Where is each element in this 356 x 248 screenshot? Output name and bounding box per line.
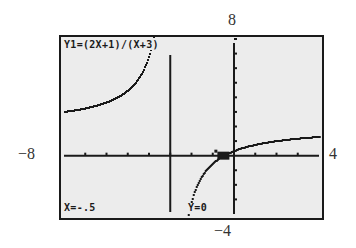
- xmin-label: −8: [18, 146, 35, 162]
- curve-left-branch: [144, 66, 146, 68]
- curve-left-branch: [143, 69, 145, 71]
- ymin-label: −4: [214, 223, 231, 239]
- curve-left-branch: [145, 64, 147, 66]
- curve-left-branch: [139, 76, 141, 78]
- curve-left-branch: [141, 73, 143, 75]
- curve-right-branch: [204, 172, 206, 174]
- curve-right-branch: [192, 198, 194, 200]
- curve-left-branch: [148, 56, 150, 58]
- curve-right-branch: [196, 186, 198, 188]
- curve-right-branch: [199, 180, 201, 182]
- curve-right-branch: [194, 191, 196, 193]
- curve-left-branch: [146, 62, 148, 64]
- curve-right-branch: [202, 175, 204, 177]
- x-readout: X=-.5: [64, 203, 96, 213]
- xmax-label: 4: [329, 146, 337, 162]
- curve-right-branch: [198, 182, 200, 184]
- equation-label: Y1=(2X+1)/(X+3): [64, 40, 159, 50]
- curve-right-branch: [197, 184, 199, 186]
- y-readout: Y=0: [188, 203, 207, 213]
- curve-left-branch: [135, 82, 137, 84]
- curve-right-branch: [188, 214, 190, 216]
- curve-right-branch: [200, 178, 202, 180]
- ymax-label: 8: [228, 12, 236, 28]
- curve-left-branch: [149, 53, 151, 55]
- curve-left-branch: [137, 79, 139, 81]
- curve-right-branch: [193, 194, 195, 196]
- calculator-screen: Y1=(2X+1)/(X+3) X=-.5 Y=0: [59, 35, 324, 220]
- trace-cursor: [217, 152, 229, 160]
- curve-left-branch: [153, 37, 155, 38]
- graph-plot: [61, 37, 322, 218]
- curve-right-branch: [319, 136, 321, 138]
- curve-left-branch: [142, 71, 144, 73]
- trace-cursor-mark: [214, 150, 217, 153]
- curve-left-branch: [147, 59, 149, 61]
- curve-right-branch: [195, 189, 197, 191]
